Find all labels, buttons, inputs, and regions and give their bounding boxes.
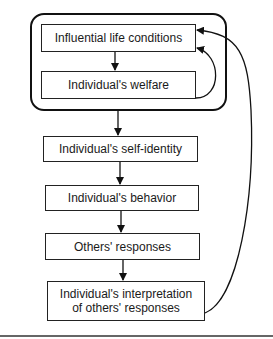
box-label: Individual's welfare xyxy=(68,78,169,92)
box-others-responses: Others' responses xyxy=(45,233,200,260)
box-self-identity: Individual's self-identity xyxy=(43,136,198,162)
box-interpretation: Individual's interpretation of others' r… xyxy=(47,281,205,321)
box-individuals-welfare: Individual's welfare xyxy=(41,71,196,99)
box-behavior: Individual's behavior xyxy=(45,185,199,211)
box-label: Others' responses xyxy=(74,240,171,254)
box-label: Individual's self-identity xyxy=(59,142,182,156)
box-label: Individual's behavior xyxy=(68,191,176,205)
box-influential-life-conditions: Influential life conditions xyxy=(41,24,196,52)
box-label-line2: of others' responses xyxy=(72,301,180,315)
box-label-line1: Individual's interpretation xyxy=(60,287,192,301)
bottom-rule xyxy=(0,335,273,337)
box-label: Influential life conditions xyxy=(55,31,182,45)
